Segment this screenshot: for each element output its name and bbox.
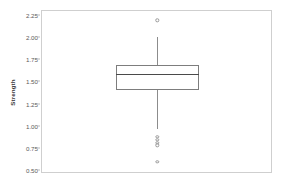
plot-area	[41, 10, 272, 173]
outlier-point	[155, 19, 158, 22]
box-iqr	[116, 65, 199, 90]
whisker-upper	[157, 37, 158, 64]
outlier-point	[155, 160, 158, 163]
outlier-point	[155, 143, 158, 146]
y-tick-mark-2-25	[37, 15, 40, 16]
y-tick-mark-1-50	[37, 81, 40, 82]
y-tick-mark-0-50	[37, 170, 40, 171]
median-line	[116, 74, 199, 75]
y-axis-tick-labels: 2.25 2.00 1.75 1.50 1.25 1.00 0.75 0.50	[0, 0, 38, 185]
y-tick-mark-0-75	[37, 148, 40, 149]
y-tick-mark-1-00	[37, 126, 40, 127]
y-tick-mark-1-75	[37, 59, 40, 60]
y-tick-mark-2-00	[37, 37, 40, 38]
whisker-lower	[157, 90, 158, 129]
boxplot-figure: Strength 2.25 2.00 1.75 1.50 1.25 1.00 0…	[0, 0, 281, 185]
y-tick-mark-1-25	[37, 104, 40, 105]
